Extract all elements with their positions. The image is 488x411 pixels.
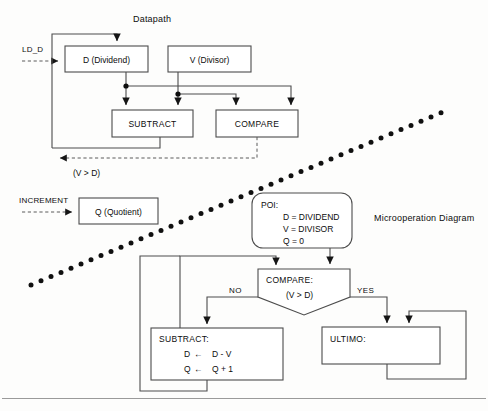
v-bus-junction-dot — [175, 91, 180, 96]
d-bus-line — [126, 72, 291, 104]
decision-header: COMPARE: — [266, 275, 313, 285]
microoperation-title: Microoperation Diagram — [374, 213, 474, 223]
v-bus-line — [178, 72, 236, 104]
no-branch-line — [207, 297, 258, 323]
poi-header: POI: — [261, 200, 278, 210]
subtract-state-line-1-lhs: D — [184, 349, 190, 359]
subtract-state-header: SUBTRACT: — [159, 334, 209, 344]
status-condition-label: (V > D) — [73, 168, 100, 178]
branch-label-yes: YES — [357, 286, 374, 295]
signal-label-ld-d: LD_D — [22, 45, 43, 54]
decision-condition: (V > D) — [286, 290, 313, 300]
d-bus-junction-dot — [123, 83, 128, 88]
subtract-state-line-1-rhs: D - V — [212, 349, 232, 359]
subtract-state-line-2-arrow: ← — [194, 364, 203, 374]
subtract-state-line-1-arrow: ← — [194, 349, 203, 359]
datapath-title: Datapath — [133, 14, 171, 24]
subtract-state-line-2-rhs: Q + 1 — [212, 364, 233, 374]
diagram-page: Datapath LD_D D (Dividend) V (Divisor) S… — [0, 0, 488, 411]
signal-label-increment: INCREMENT — [19, 196, 68, 205]
yes-branch-line — [350, 297, 387, 322]
d-register-label: D (Dividend) — [83, 55, 130, 65]
subtract-state-line-2-lhs: Q — [184, 364, 191, 374]
ultimo-state-box — [322, 327, 440, 364]
poi-line-3: Q = 0 — [283, 236, 304, 246]
v-register-label: V (Divisor) — [190, 55, 230, 65]
ultimo-state-header: ULTIMO: — [330, 334, 366, 344]
diagram-canvas: Datapath LD_D D (Dividend) V (Divisor) S… — [0, 0, 488, 411]
subtract-unit-label: SUBTRACT — [128, 119, 176, 129]
q-register-label: Q (Quotient) — [95, 207, 142, 217]
subtract-result-line — [52, 137, 160, 148]
poi-line-1: D = DIVIDEND — [283, 212, 339, 222]
poi-line-2: V = DIVISOR — [283, 224, 333, 234]
compare-unit-label: COMPARE — [235, 119, 279, 129]
branch-label-no: NO — [229, 286, 242, 295]
